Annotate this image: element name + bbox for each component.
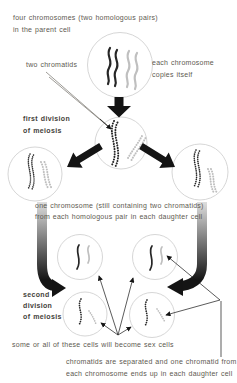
sex-cells-note: some or all of these cells will become s… [12,339,174,351]
second-division-label-line3: of meiosis [23,311,62,323]
second-division-label-line2: division [23,300,52,312]
parent-cell [88,33,153,98]
second-division-label-line1: second [23,289,50,301]
daughter-note-line1: one chromosome (still containing two chr… [35,200,204,212]
first-division-label-line1: first division [23,113,70,125]
copies-note-line2: copies itself [152,69,192,81]
copy-down-arrow-icon [107,97,131,118]
first-division-left-arrow-icon [67,143,103,168]
parent-note-line2: in the parent cell [13,24,71,36]
separation-note-line1: chromatids are separated and one chromat… [66,356,237,368]
parent-note-line1: four chromosomes (two homologous pairs) [13,12,158,24]
sex-cell-top-left [58,235,103,280]
duplicated-cell [95,117,147,169]
sex-cell-bottom-right [130,293,175,338]
copies-note-line1: each chromosome [152,57,214,69]
two-chromatids-label: two chromatids [26,59,77,71]
daughter-cell-left [8,147,62,201]
sex-cell-top-right [133,235,178,280]
separation-pointer-arrows [166,256,221,357]
first-division-right-arrow-icon [139,143,175,168]
sex-cell-bottom-left [63,292,107,336]
separation-note-line2: each chromosome ends up in each daughter… [66,368,232,380]
first-division-label-line2: of meiosis [23,125,62,137]
meiosis-diagram: four chromosomes (two homologous pairs) … [0,0,237,383]
daughter-note-line2: from each homologous pair in each daught… [35,211,202,223]
